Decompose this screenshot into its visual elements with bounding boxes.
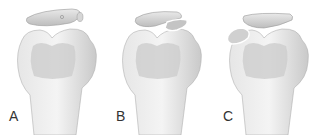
meniscus-fragment (243, 13, 293, 28)
panel-c: C (214, 0, 321, 135)
panel-label-a: A (9, 109, 18, 123)
articular-surface-shadow (136, 43, 181, 79)
panel-label-c: C (223, 109, 233, 123)
fragment-end-piece (77, 13, 83, 22)
panel-label-b: B (116, 109, 125, 123)
panel-b: B (107, 0, 214, 135)
articular-surface-shadow (31, 43, 76, 79)
articular-surface-shadow (243, 43, 288, 79)
meniscus-fragment (26, 9, 80, 26)
panel-a: A (0, 0, 107, 135)
torn-flap (165, 19, 187, 30)
